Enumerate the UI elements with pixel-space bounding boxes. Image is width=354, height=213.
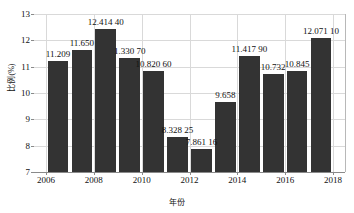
- x-tick-label: 2016: [276, 175, 294, 185]
- y-tick-label: 13: [21, 9, 30, 19]
- y-tick-mark: [31, 146, 34, 147]
- bar: [119, 58, 140, 172]
- bar: [95, 29, 116, 172]
- bar-value-label: 12.414 40: [88, 17, 124, 27]
- bar-value-label: 8.328 25: [162, 125, 194, 135]
- y-axis-title: 比例(%): [5, 48, 16, 108]
- y-tick-label: 7: [26, 167, 31, 177]
- bar-value-label: 11.209: [46, 49, 70, 59]
- bar: [215, 102, 236, 172]
- bar-value-label: 1.330 70: [114, 46, 146, 56]
- y-tick-mark: [31, 172, 34, 173]
- y-tick-label: 8: [26, 141, 31, 151]
- x-tick-label: 2014: [228, 175, 246, 185]
- x-axis-title: 年份: [0, 196, 354, 207]
- y-tick-mark: [31, 119, 34, 120]
- y-tick-label: 12: [21, 35, 30, 45]
- bar-value-label: 10.845: [285, 59, 310, 69]
- bar: [191, 149, 212, 172]
- bar-value-label: 10.820 60: [136, 59, 172, 69]
- vertical-gridline: [190, 14, 191, 172]
- bar-value-label: 10.732: [261, 62, 286, 72]
- x-tick-label: 2018: [324, 175, 342, 185]
- x-tick-label: 2008: [85, 175, 103, 185]
- y-tick-mark: [31, 40, 34, 41]
- y-tick-mark: [31, 14, 34, 15]
- x-tick-label: 2006: [37, 175, 55, 185]
- y-tick-label: 9: [26, 114, 31, 124]
- bar-value-label: 11.650: [70, 38, 94, 48]
- bar: [48, 61, 69, 172]
- bar: [287, 71, 308, 172]
- bar: [239, 56, 260, 172]
- bar: [311, 38, 332, 172]
- x-tick-label: 2010: [133, 175, 151, 185]
- bar-value-label: 7.861 16: [186, 137, 218, 147]
- bar: [72, 50, 93, 172]
- plot-area: 78910111213 2006200820102012201420162018…: [34, 14, 346, 172]
- vertical-gridline: [333, 14, 334, 172]
- bar-value-label: 12.071 10: [303, 26, 339, 36]
- y-tick-mark: [31, 93, 34, 94]
- bar-value-label: 11.417 90: [231, 44, 267, 54]
- bar: [143, 71, 164, 172]
- y-tick-mark: [31, 67, 34, 68]
- bar-chart-figure: 比例(%) 78910111213 2006200820102012201420…: [0, 0, 354, 213]
- y-tick-label: 11: [21, 62, 30, 72]
- bar-value-label: 9.658: [215, 90, 235, 100]
- y-tick-label: 10: [21, 88, 30, 98]
- x-tick-label: 2012: [181, 175, 199, 185]
- bar: [263, 74, 284, 172]
